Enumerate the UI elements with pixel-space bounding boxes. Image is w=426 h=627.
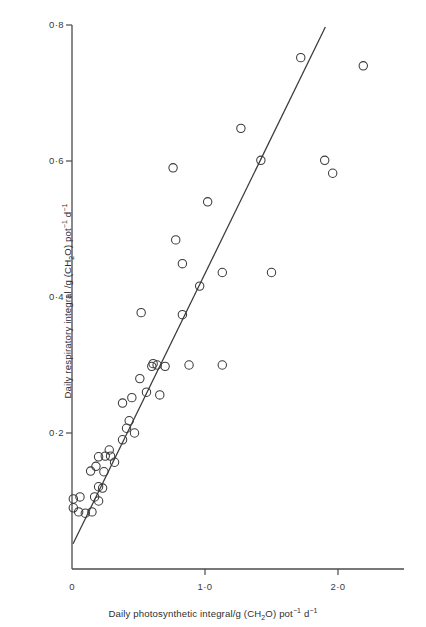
x-axis-tick-label: 0 [52,581,92,592]
x-axis-tick-label: 2·0 [318,581,358,592]
regression-line-path [73,27,325,544]
data-points [69,53,367,517]
data-point [100,468,108,476]
data-point [328,169,336,177]
data-point [359,62,367,70]
data-point [297,53,305,61]
data-point [128,393,136,401]
data-point [237,124,245,132]
data-point [130,429,138,437]
y-axis-title-text: Daily respiratory integral /g (CH2O) pot… [62,203,73,398]
y-axis-tick-label: 0·8 [36,19,64,30]
data-point [136,374,144,382]
data-point [156,391,164,399]
x-axis-tick-label: 1·0 [185,581,225,592]
x-axis-title-text: Daily photosynthetic integral/g (CH2O) p… [108,608,317,619]
data-point [125,417,133,425]
data-point [169,164,177,172]
data-point [137,308,145,316]
regression-line [73,27,325,544]
axis-lines [72,25,404,569]
data-point [185,361,193,369]
data-point [118,399,126,407]
data-point [161,362,169,370]
data-point [106,452,114,460]
data-point [86,467,94,475]
data-point [218,268,226,276]
y-axis-title: Daily respiratory integral /g (CH2O) pot… [57,151,75,451]
data-point [92,462,100,470]
data-point [218,361,226,369]
x-axis-ticks [205,569,338,575]
data-point [105,446,113,454]
data-point [267,268,275,276]
data-point [178,259,186,267]
data-point [203,198,211,206]
x-axis-title: Daily photosynthetic integral/g (CH2O) p… [0,603,426,621]
data-point [321,156,329,164]
scatter-plot-figure: 0·20·40·60·8 01·02·0 Daily respiratory i… [0,0,426,627]
data-point [172,236,180,244]
